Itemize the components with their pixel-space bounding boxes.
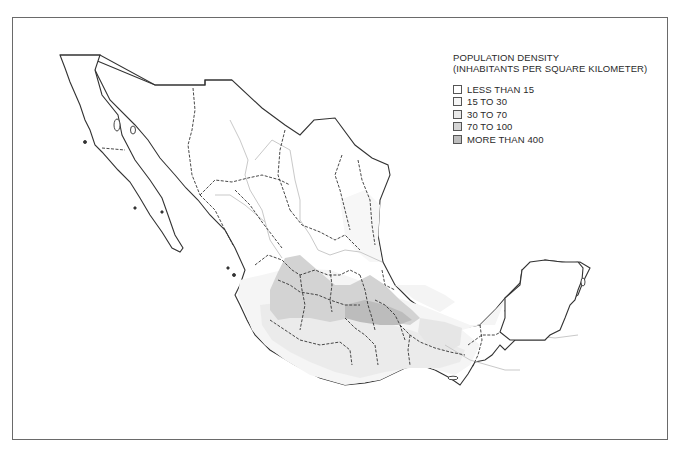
island-laguna (448, 376, 458, 380)
yucatan-peninsula (500, 260, 583, 340)
legend-item-less-than-15: LESS THAN 15 (453, 83, 647, 96)
island-angel-de-la-guarda (131, 126, 136, 134)
legend-title-line2: (INHABITANTS PER SQUARE KILOMETER) (453, 63, 647, 74)
map-legend: POPULATION DENSITY (INHABITANTS PER SQUA… (453, 52, 647, 146)
swatch-more-than-400 (453, 135, 462, 144)
island-small-1 (84, 141, 87, 144)
legend-label: 15 TO 30 (467, 96, 507, 107)
island-small-4 (134, 207, 136, 209)
swatch-30-to-70 (453, 110, 462, 119)
island-cozumel (581, 278, 585, 286)
island-tiburon (114, 119, 120, 131)
legend-label: 70 TO 100 (467, 121, 512, 132)
legend-title-line1: POPULATION DENSITY (453, 52, 647, 63)
swatch-70-to-100 (453, 122, 462, 131)
legend-item-more-than-400: MORE THAN 400 (453, 133, 647, 146)
swatch-15-to-30 (453, 97, 462, 106)
legend-label: 30 TO 70 (467, 109, 507, 120)
island-small-3 (227, 267, 229, 269)
yucatan-outline (500, 260, 583, 340)
island-small-5 (161, 211, 163, 213)
legend-items: LESS THAN 15 15 TO 30 30 TO 70 70 TO 100… (453, 83, 647, 146)
legend-item-70-to-100: 70 TO 100 (453, 121, 647, 134)
legend-item-30-to-70: 30 TO 70 (453, 108, 647, 121)
island-small-2 (233, 274, 236, 277)
swatch-less-than-15 (453, 85, 462, 94)
legend-label: MORE THAN 400 (467, 134, 544, 145)
legend-label: LESS THAN 15 (467, 84, 534, 95)
legend-item-15-to-30: 15 TO 30 (453, 96, 647, 109)
